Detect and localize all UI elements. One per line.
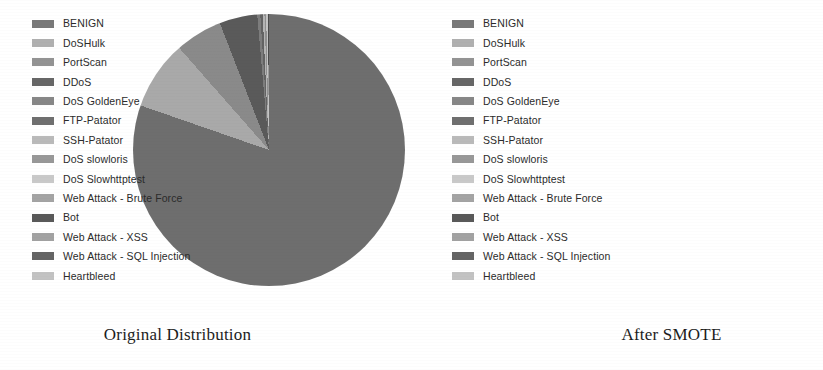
legend-swatch-icon bbox=[452, 214, 474, 222]
legend-item-label: Web Attack - XSS bbox=[483, 232, 568, 243]
legend-item-label: PortScan bbox=[483, 57, 527, 68]
legend-swatch-icon bbox=[452, 78, 474, 86]
legend-swatch-icon bbox=[452, 39, 474, 47]
legend-item-label: Bot bbox=[483, 212, 499, 223]
legend-item: DoSHulk bbox=[452, 33, 611, 52]
legend-item-label: DoS GoldenEye bbox=[63, 96, 140, 107]
legend-original: BENIGNDoSHulkPortScanDDoSDoS GoldenEyeFT… bbox=[32, 14, 191, 285]
legend-item-label: Web Attack - SQL Injection bbox=[63, 251, 191, 262]
legend-item: Bot bbox=[32, 208, 191, 227]
legend-item-label: DoS slowloris bbox=[483, 154, 548, 165]
legend-item: Bot bbox=[452, 208, 611, 227]
legend-item: SSH-Patator bbox=[452, 130, 611, 149]
legend-swatch-icon bbox=[452, 155, 474, 163]
legend-swatch-icon bbox=[32, 20, 54, 28]
legend-item: BENIGN bbox=[452, 14, 611, 33]
legend-swatch-icon bbox=[32, 58, 54, 66]
legend-item-label: PortScan bbox=[63, 57, 107, 68]
caption-original-distribution: Original Distribution bbox=[0, 325, 383, 345]
legend-item: PortScan bbox=[32, 53, 191, 72]
legend-swatch-icon bbox=[32, 155, 54, 163]
legend-swatch-icon bbox=[32, 214, 54, 222]
legend-item: PortScan bbox=[452, 53, 611, 72]
legend-swatch-icon bbox=[32, 252, 54, 260]
legend-item-label: DoSHulk bbox=[63, 38, 105, 49]
legend-smote: BENIGNDoSHulkPortScanDDoSDoS GoldenEyeFT… bbox=[452, 14, 611, 285]
legend-swatch-icon bbox=[32, 78, 54, 86]
legend-item-label: Heartbleed bbox=[63, 271, 115, 282]
legend-item: Web Attack - Brute Force bbox=[32, 189, 191, 208]
legend-item-label: DDoS bbox=[63, 77, 91, 88]
legend-swatch-icon bbox=[452, 272, 474, 280]
legend-swatch-icon bbox=[32, 39, 54, 47]
legend-item-label: BENIGN bbox=[63, 18, 104, 29]
legend-swatch-icon bbox=[452, 136, 474, 144]
legend-item-label: Web Attack - XSS bbox=[63, 232, 148, 243]
legend-swatch-icon bbox=[452, 20, 474, 28]
legend-item-label: DoS slowloris bbox=[63, 154, 128, 165]
legend-item-label: Heartbleed bbox=[483, 271, 535, 282]
legend-item: Heartbleed bbox=[452, 266, 611, 285]
legend-item-label: DDoS bbox=[483, 77, 511, 88]
legend-swatch-icon bbox=[452, 97, 474, 105]
legend-item: FTP-Patator bbox=[32, 111, 191, 130]
legend-item: DoS Slowhttptest bbox=[452, 169, 611, 188]
legend-item: SSH-Patator bbox=[32, 130, 191, 149]
legend-item: Heartbleed bbox=[32, 266, 191, 285]
legend-swatch-icon bbox=[452, 194, 474, 202]
legend-swatch-icon bbox=[32, 136, 54, 144]
legend-item: Web Attack - SQL Injection bbox=[32, 247, 191, 266]
panel-after-smote: BENIGNDoSHulkPortScanDDoSDoS GoldenEyeFT… bbox=[412, 0, 823, 370]
legend-swatch-icon bbox=[32, 233, 54, 241]
legend-item: BENIGN bbox=[32, 14, 191, 33]
legend-item-label: SSH-Patator bbox=[63, 135, 123, 146]
panel-original-distribution: BENIGNDoSHulkPortScanDDoSDoS GoldenEyeFT… bbox=[0, 0, 411, 370]
legend-item-label: Web Attack - Brute Force bbox=[483, 193, 603, 204]
legend-item-label: FTP-Patator bbox=[63, 115, 121, 126]
legend-item-label: DoSHulk bbox=[483, 38, 525, 49]
legend-swatch-icon bbox=[452, 252, 474, 260]
legend-item: FTP-Patator bbox=[452, 111, 611, 130]
legend-swatch-icon bbox=[452, 233, 474, 241]
legend-item: DoS GoldenEye bbox=[452, 92, 611, 111]
legend-item-label: DoS GoldenEye bbox=[483, 96, 560, 107]
legend-swatch-icon bbox=[452, 117, 474, 125]
legend-item: DoS slowloris bbox=[32, 150, 191, 169]
legend-item: DoS slowloris bbox=[452, 150, 611, 169]
legend-item: DoS GoldenEye bbox=[32, 92, 191, 111]
legend-swatch-icon bbox=[32, 175, 54, 183]
legend-swatch-icon bbox=[32, 272, 54, 280]
legend-item-label: Web Attack - SQL Injection bbox=[483, 251, 611, 262]
legend-swatch-icon bbox=[32, 117, 54, 125]
legend-item-label: BENIGN bbox=[483, 18, 524, 29]
legend-item: DoSHulk bbox=[32, 33, 191, 52]
legend-item-label: DoS Slowhttptest bbox=[483, 174, 565, 185]
legend-swatch-icon bbox=[32, 194, 54, 202]
legend-item-label: FTP-Patator bbox=[483, 115, 541, 126]
legend-item-label: DoS Slowhttptest bbox=[63, 174, 145, 185]
legend-swatch-icon bbox=[32, 97, 54, 105]
legend-item-label: Bot bbox=[63, 212, 79, 223]
legend-swatch-icon bbox=[452, 175, 474, 183]
legend-item: Web Attack - XSS bbox=[452, 227, 611, 246]
legend-item: Web Attack - Brute Force bbox=[452, 189, 611, 208]
legend-item-label: Web Attack - Brute Force bbox=[63, 193, 183, 204]
legend-item: Web Attack - SQL Injection bbox=[452, 247, 611, 266]
legend-swatch-icon bbox=[452, 58, 474, 66]
caption-after-smote: After SMOTE bbox=[466, 325, 823, 345]
legend-item-label: SSH-Patator bbox=[483, 135, 543, 146]
legend-item: Web Attack - XSS bbox=[32, 227, 191, 246]
legend-item: DDoS bbox=[32, 72, 191, 91]
legend-item: DDoS bbox=[452, 72, 611, 91]
legend-item: DoS Slowhttptest bbox=[32, 169, 191, 188]
